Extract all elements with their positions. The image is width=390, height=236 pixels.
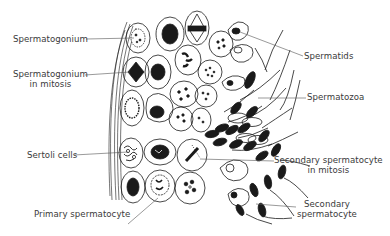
secondary-spermatocyte-mitosis-cell [177,139,207,171]
sertoli-cell [119,138,143,168]
label-line-1: Spermatogonium [13,69,88,79]
label-line-1: Secondary [297,199,357,209]
label-line-2: spermatocyte [297,209,357,219]
label-secondary-spermatocyte: Secondary spermatocyte [297,199,357,219]
label-sertoli-cells: Sertoli cells [27,150,77,160]
label-secondary-spermatocyte-in-mitosis: Secondary spermatocyte in mitosis [274,155,383,175]
label-line-2: in mitosis [13,79,88,89]
label-spermatids: Spermatids [304,51,353,61]
primary-spermatocyte-cell [145,170,175,202]
label-primary-spermatocyte: Primary spermatocyte [34,209,130,219]
label-spermatogonium-in-mitosis: Spermatogonium in mitosis [13,69,88,89]
spermatozoa-cluster [204,30,310,224]
label-spermatozoa: Spermatozoa [307,92,364,102]
label-line-2: in mitosis [274,165,383,175]
label-line-1: Secondary spermatocyte [274,155,383,165]
label-spermatogonium: Spermatogonium [13,34,88,44]
